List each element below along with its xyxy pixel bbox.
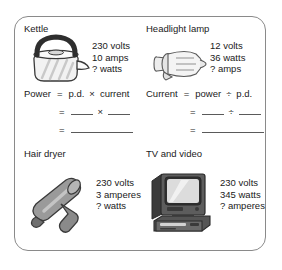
- formula-result-row: =: [146, 123, 264, 136]
- appliance-title-hair-dryer: Hair dryer: [24, 148, 142, 159]
- appliance-title-tv-and-video: TV and video: [146, 148, 264, 159]
- spec-line: 230 volts: [220, 177, 265, 189]
- appliance-title-headlight-lamp: Headlight lamp: [146, 23, 264, 34]
- appliance-panel-tv-and-video: TV and video: [146, 148, 264, 229]
- appliance-specs-tv-and-video: 230 volts 345 watts ? amperes: [220, 177, 265, 212]
- spec-line: 230 volts: [96, 177, 141, 189]
- kettle-icon: [24, 34, 90, 88]
- hair-dryer-icon: [28, 173, 94, 237]
- equals-sign: =: [59, 105, 65, 118]
- spec-line: ? watts: [96, 200, 141, 212]
- formula-operator: ×: [98, 105, 104, 118]
- spec-line: 12 volts: [210, 40, 245, 52]
- formula-operator: ×: [89, 87, 95, 100]
- appliance-title-kettle: Kettle: [24, 23, 142, 34]
- formula-quantity-label: Current: [146, 87, 178, 100]
- spec-line: 345 watts: [220, 189, 265, 201]
- equals-sign: =: [184, 87, 190, 100]
- answer-blank-result[interactable]: [202, 123, 264, 133]
- formula-operator: ÷: [229, 105, 234, 118]
- spec-line: ? amps: [210, 63, 245, 75]
- answer-blank-left[interactable]: [202, 105, 224, 115]
- answer-blank-right[interactable]: [108, 105, 130, 115]
- equals-sign: =: [190, 105, 196, 118]
- formula-left-term: p.d.: [69, 87, 85, 100]
- television-icon: [148, 169, 214, 237]
- answer-blank-result[interactable]: [71, 123, 133, 133]
- spec-line: 3 amperes: [96, 189, 141, 201]
- spec-line: ? amperes: [220, 200, 265, 212]
- formula-definition-row: Current = power ÷ p.d.: [146, 87, 264, 100]
- formula-substitution-row: = ÷: [146, 105, 264, 118]
- formula-current: Current = power ÷ p.d. = ÷ =: [146, 87, 264, 136]
- spec-line: 10 amps: [92, 52, 130, 64]
- equals-sign: =: [190, 123, 196, 136]
- spec-line: 36 watts: [210, 52, 245, 64]
- equals-sign: =: [59, 123, 65, 136]
- formula-substitution-row: = ×: [24, 105, 133, 118]
- formula-right-term: current: [100, 87, 130, 100]
- appliance-panel-kettle: Kettle: [24, 23, 142, 86]
- appliance-specs-hair-dryer: 230 volts 3 amperes ? watts: [96, 177, 141, 212]
- formula-right-term: p.d.: [236, 87, 252, 100]
- appliance-panel-headlight-lamp: Headlight lamp: [146, 23, 264, 86]
- formula-left-term: power: [195, 87, 221, 100]
- formula-quantity-label: Power: [24, 87, 51, 100]
- formula-definition-row: Power = p.d. × current: [24, 87, 133, 100]
- equals-sign: =: [57, 87, 63, 100]
- answer-blank-right[interactable]: [239, 105, 261, 115]
- formula-result-row: =: [24, 123, 133, 136]
- appliance-specs-headlight-lamp: 12 volts 36 watts ? amps: [210, 40, 245, 75]
- headlight-lamp-icon: [152, 44, 208, 88]
- appliance-panel-hair-dryer: Hair dryer 230 volts 3 amperes: [24, 148, 142, 229]
- spec-line: ? watts: [92, 63, 130, 75]
- formula-power: Power = p.d. × current = × =: [24, 87, 133, 136]
- formula-operator: ÷: [226, 87, 231, 100]
- spec-line: 230 volts: [92, 40, 130, 52]
- worksheet-card: Kettle: [14, 16, 266, 251]
- answer-blank-left[interactable]: [71, 105, 93, 115]
- appliance-specs-kettle: 230 volts 10 amps ? watts: [92, 40, 130, 75]
